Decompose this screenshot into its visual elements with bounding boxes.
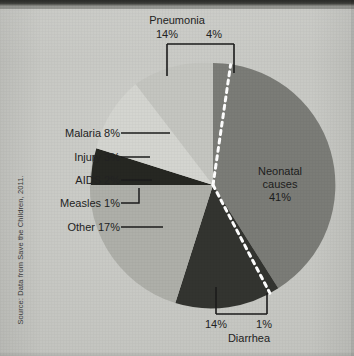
- diarrhea-label: Diarrhea: [228, 332, 270, 345]
- injury-label: Injury 3%: [16, 151, 120, 163]
- diarrhea-percent-group: 14%1%: [190, 318, 308, 331]
- neonatal-line-2: causes: [258, 178, 302, 191]
- pneumonia-percent-group: 14%4%: [143, 28, 253, 41]
- diarrhea-percent-neonatal: 1%: [242, 318, 286, 331]
- figure-canvas: Pneumonia 14%4% Neonatal causes 41% 14%1…: [0, 0, 354, 356]
- aids-label: AIDS 2%: [16, 174, 120, 186]
- pneumonia-percent-neonatal: 4%: [191, 28, 237, 41]
- neonatal-line-3: 41%: [258, 191, 302, 204]
- other-label: Other 17%: [16, 221, 120, 233]
- pneumonia-percent-main: 14%: [143, 28, 191, 41]
- malaria-label: Malaria 8%: [16, 127, 120, 139]
- neonatal-line-1: Neonatal: [258, 165, 302, 178]
- measles-label: Measles 1%: [16, 197, 120, 209]
- source-note: Source: Data from Save the Children, 201…: [16, 175, 25, 325]
- pneumonia-label: Pneumonia: [149, 14, 205, 27]
- diarrhea-percent-main: 14%: [190, 318, 242, 331]
- neonatal-causes-label: Neonatal causes 41%: [258, 165, 302, 204]
